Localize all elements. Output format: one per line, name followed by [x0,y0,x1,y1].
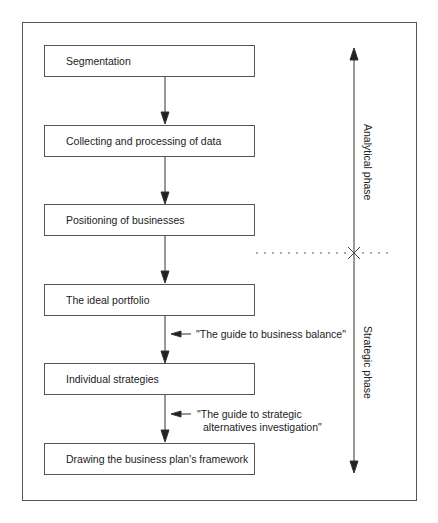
step-label: Drawing the business plan's framework [66,453,248,465]
annotation-line: "The guide to strategic [197,408,322,421]
phase-boundary [256,252,388,254]
step-business-plan: Drawing the business plan's framework [44,443,255,475]
step-positioning: Positioning of businesses [44,204,255,236]
step-label: Positioning of businesses [66,214,185,226]
step-label: Segmentation [66,55,131,67]
step-segmentation: Segmentation [44,45,255,77]
annotation-business-balance: "The guide to business balance" [196,328,346,341]
annotation-line: "The guide to business balance" [196,328,346,341]
phase-arrow [350,48,358,473]
step-collecting-data: Collecting and processing of data [44,125,255,157]
step-label: Individual strategies [66,373,159,385]
step-label: The ideal portfolio [66,294,149,306]
step-label: Collecting and processing of data [66,135,221,147]
step-ideal-portfolio: The ideal portfolio [44,284,255,316]
annotation-strategic-alternatives: "The guide to strategic alternatives inv… [197,408,322,433]
step-individual-strategies: Individual strategies [44,363,255,395]
annotation-line: alternatives investigation" [197,421,322,434]
phase-label-analytical: Analytical phase [362,124,374,200]
phase-label-strategic: Strategic phase [362,326,374,399]
